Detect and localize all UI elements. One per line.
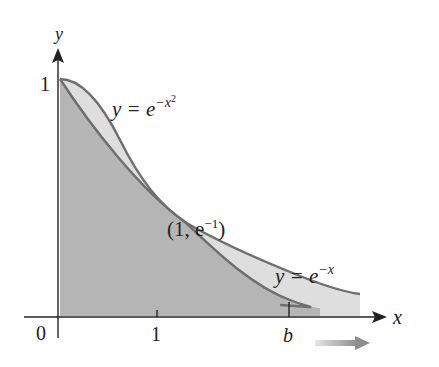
chart-figure: y x 0 1 1 b y = e−x2 y = e−x (1, e−1) [0, 0, 439, 367]
limit-arrow-icon [315, 336, 370, 350]
x-tick-1-label: 1 [151, 323, 161, 345]
y-axis-label: y [53, 24, 63, 44]
exp-curve-label: y = e−x [273, 262, 335, 288]
origin-label: 0 [36, 322, 46, 344]
gauss-curve-label: y = e−x2 [110, 93, 176, 121]
x-axis-label: x [392, 306, 402, 328]
y-tick-1-label: 1 [40, 73, 50, 95]
x-tick-b-label: b [283, 324, 293, 346]
intersection-label: (1, e−1) [167, 216, 225, 241]
